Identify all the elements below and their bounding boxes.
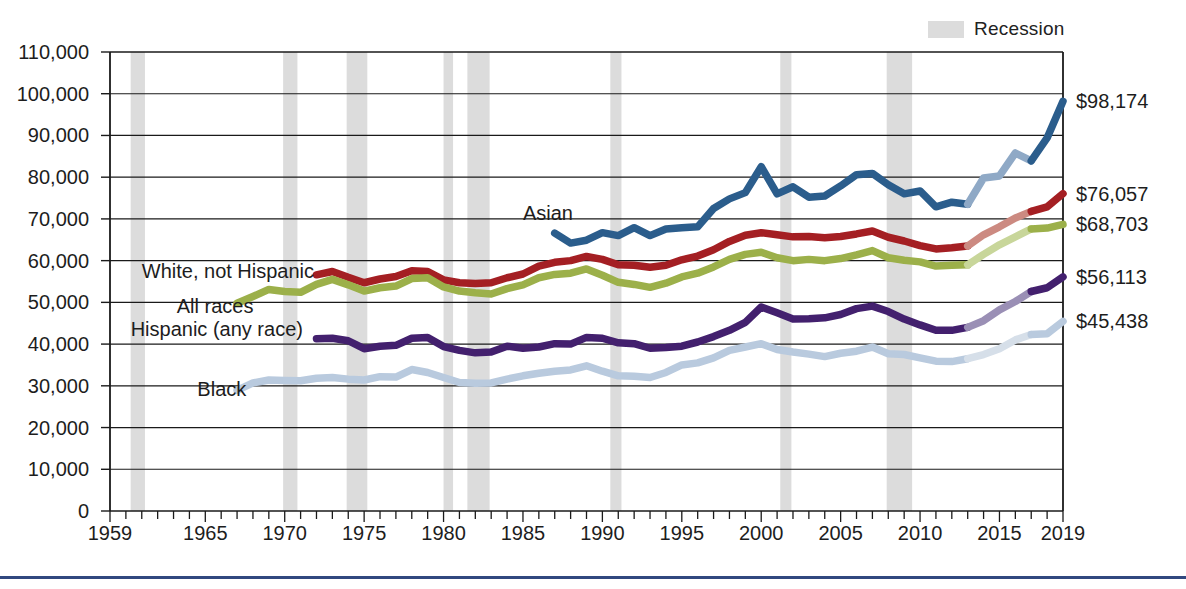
series-inline-labels: AsianWhite, not HispanicAll racesHispani…: [0, 0, 1186, 589]
series-inline-label: Asian: [523, 201, 573, 224]
series-inline-label: White, not Hispanic: [142, 259, 314, 282]
bottom-divider: [0, 576, 1186, 579]
series-inline-label: All races: [177, 295, 254, 318]
income-chart-figure: Recession 110,000100,00090,00080,00070,0…: [0, 0, 1186, 589]
series-inline-label: Black: [197, 378, 246, 401]
series-inline-label: Hispanic (any race): [131, 318, 303, 341]
